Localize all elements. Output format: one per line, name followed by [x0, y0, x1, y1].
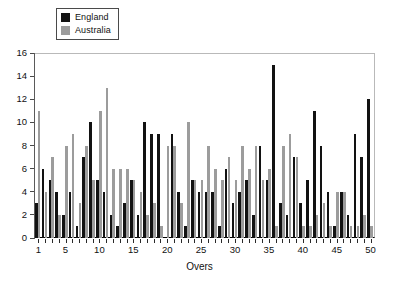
- bar-group-over-24: [191, 53, 198, 238]
- bar-group-over-42: [313, 53, 320, 238]
- x-axis-tick: [154, 239, 155, 243]
- bar-group-over-20: [164, 53, 171, 238]
- y-axis-label: 8: [3, 141, 27, 151]
- bar-group-over-48: [354, 53, 361, 238]
- x-axis-label: 5: [55, 245, 77, 255]
- y-axis-tick: [30, 168, 34, 169]
- bar-group-over-22: [177, 53, 184, 238]
- bar-australia-over-4: [58, 215, 61, 238]
- bar-australia-over-38: [289, 134, 292, 238]
- bar-group-over-47: [347, 53, 354, 238]
- bar-group-over-27: [211, 53, 218, 238]
- x-axis-label: 30: [224, 245, 246, 255]
- bar-australia-over-1: [38, 111, 41, 238]
- bar-group-over-41: [306, 53, 313, 238]
- x-axis-tick: [174, 239, 175, 243]
- x-axis-tick: [127, 239, 128, 243]
- y-axis-label: 10: [3, 117, 27, 127]
- bar-australia-over-33: [255, 146, 258, 239]
- x-axis-tick: [93, 239, 94, 243]
- bar-england-over-50: [367, 99, 370, 238]
- x-axis-tick: [99, 239, 100, 243]
- bar-australia-over-46: [343, 192, 346, 238]
- x-axis-tick: [242, 239, 243, 243]
- bar-group-over-2: [42, 53, 49, 238]
- bar-australia-over-42: [316, 215, 319, 238]
- x-axis-tick: [140, 239, 141, 243]
- bar-australia-over-34: [262, 180, 265, 238]
- x-axis-tick: [357, 239, 358, 243]
- bar-group-over-7: [76, 53, 83, 238]
- legend-entry-australia: Australia: [61, 25, 111, 36]
- x-axis-tick: [120, 239, 121, 243]
- x-axis-tick: [52, 239, 53, 243]
- bar-england-over-19: [157, 134, 160, 238]
- x-axis-tick: [208, 239, 209, 243]
- black-square-swatch: [61, 13, 70, 22]
- legend-entry-england: England: [61, 12, 111, 23]
- bar-australia-over-29: [228, 157, 231, 238]
- bar-australia-over-21: [173, 146, 176, 239]
- bar-group-over-19: [157, 53, 164, 238]
- bar-group-over-50: [367, 53, 374, 238]
- bar-australia-over-12: [112, 169, 115, 238]
- x-axis-tick: [59, 239, 60, 243]
- bar-group-over-28: [218, 53, 225, 238]
- x-axis-title: Overs: [0, 261, 399, 272]
- bar-group-over-36: [272, 53, 279, 238]
- bar-group-over-23: [184, 53, 191, 238]
- x-axis-tick: [282, 239, 283, 243]
- bar-group-over-11: [103, 53, 110, 238]
- x-axis-label: 20: [156, 245, 178, 255]
- bar-group-over-18: [150, 53, 157, 238]
- bar-australia-over-16: [140, 192, 143, 238]
- bar-australia-over-23: [187, 122, 190, 238]
- bar-australia-over-43: [323, 203, 326, 238]
- x-axis-label: 1: [27, 245, 49, 255]
- bar-australia-over-49: [363, 215, 366, 238]
- bar-group-over-34: [259, 53, 266, 238]
- x-axis-tick: [133, 239, 134, 243]
- x-axis-tick: [215, 239, 216, 243]
- x-axis-tick: [330, 239, 331, 243]
- bar-group-over-44: [327, 53, 334, 238]
- bar-australia-over-50: [370, 226, 373, 238]
- bar-australia-over-26: [207, 146, 210, 239]
- y-axis-tick: [30, 238, 34, 239]
- x-axis-label: 50: [360, 245, 382, 255]
- bar-group-over-4: [55, 53, 62, 238]
- bar-australia-over-45: [336, 192, 339, 238]
- bar-group-over-3: [49, 53, 56, 238]
- x-axis-tick: [276, 239, 277, 243]
- y-axis-label: 4: [3, 187, 27, 197]
- bar-group-over-10: [96, 53, 103, 238]
- bar-australia-over-25: [201, 180, 204, 238]
- bar-england-over-48: [354, 134, 357, 238]
- bar-group-over-37: [279, 53, 286, 238]
- bar-group-over-30: [232, 53, 239, 238]
- bar-group-over-1: [35, 53, 42, 238]
- bar-australia-over-14: [126, 169, 129, 238]
- bar-group-over-15: [130, 53, 137, 238]
- bar-group-over-5: [62, 53, 69, 238]
- bar-australia-over-15: [133, 180, 136, 238]
- x-axis-tick: [364, 239, 365, 243]
- bar-australia-over-35: [268, 169, 271, 238]
- bar-group-over-49: [360, 53, 367, 238]
- x-axis-tick: [221, 239, 222, 243]
- legend-label-australia: Australia: [75, 26, 111, 35]
- y-axis-tick: [30, 53, 34, 54]
- x-axis-tick: [188, 239, 189, 243]
- bar-chart-figure: England Australia 0246810121416 15101520…: [0, 0, 399, 282]
- bar-australia-over-17: [146, 215, 149, 238]
- bar-australia-over-44: [329, 226, 332, 238]
- y-axis-tick: [30, 191, 34, 192]
- x-axis-tick: [235, 239, 236, 243]
- x-axis-tick: [262, 239, 263, 243]
- bar-group-over-6: [69, 53, 76, 238]
- bar-australia-over-22: [180, 203, 183, 238]
- x-axis-tick: [343, 239, 344, 243]
- bar-group-over-17: [143, 53, 150, 238]
- bar-group-over-40: [299, 53, 306, 238]
- x-axis-tick: [269, 239, 270, 243]
